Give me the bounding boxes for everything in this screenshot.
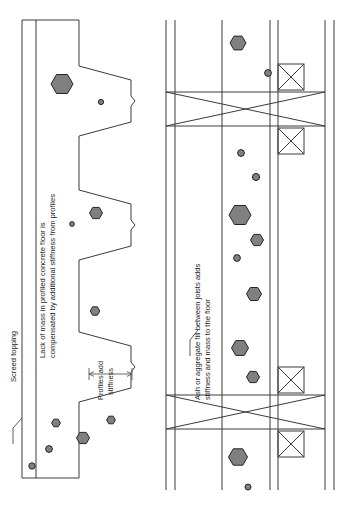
aggregate-hexagon — [51, 75, 73, 94]
aggregate-hexagon — [107, 416, 116, 424]
label-screed-topping: Screed topping — [9, 331, 18, 382]
aggregate-hexagon — [52, 419, 61, 427]
aggregate-hexagon — [247, 371, 260, 382]
aggregate-hexagon — [230, 36, 246, 50]
aggregate-hexagon — [90, 307, 100, 315]
aggregate-dot — [46, 446, 53, 453]
label-profiles-add-line1: Profiles add — [96, 361, 105, 400]
aggregate-hexagon — [232, 341, 249, 356]
aggregate-hexagon — [229, 206, 251, 225]
aggregate-dot — [98, 99, 103, 104]
aggregate-hexagon — [247, 288, 262, 301]
label-lack-of-mass-line2: compensated by additional stiffness from… — [48, 194, 57, 358]
label-profiles-add-line2: stiffness — [106, 368, 115, 395]
aggregate-hexagon — [229, 449, 248, 465]
label-ash-fill-line1: Ash or aggregate fill between joists add… — [193, 263, 202, 400]
label-lack-of-mass-line1: Lack of mass in profiled concrete floor … — [38, 222, 47, 358]
aggregate-dot — [234, 255, 241, 262]
aggregate-dot — [265, 70, 272, 77]
aggregate-dot — [252, 173, 259, 180]
aggregate-hexagon — [90, 207, 103, 218]
aggregate-dot — [238, 150, 245, 157]
figure-container: Screed topping Lack of mass in profiled … — [0, 0, 344, 506]
construction-section-diagram: Screed topping Lack of mass in profiled … — [0, 0, 344, 506]
aggregate-hexagon — [251, 234, 264, 245]
label-ash-fill-line2: stiffness and mass to the floor — [203, 299, 212, 400]
aggregate-hexagon — [77, 432, 90, 443]
aggregate-dot — [245, 484, 251, 490]
aggregate-dot — [70, 222, 75, 227]
aggregate-dot — [29, 463, 35, 469]
